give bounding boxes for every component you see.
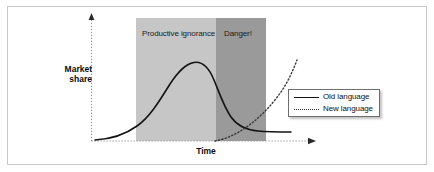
- y-axis-label-line-1: Market: [46, 64, 92, 74]
- chart-legend: Old language New language: [288, 89, 380, 117]
- band-label-danger: Danger!: [224, 29, 252, 38]
- y-axis-label-line-2: share: [46, 74, 92, 84]
- legend-label-new-language: New language: [323, 104, 373, 113]
- legend-swatch-dotted-line-icon: [294, 109, 319, 110]
- band-label-productive-ignorance: Productive ignorance: [142, 29, 215, 38]
- x-axis-label: Time: [176, 146, 236, 156]
- legend-label-old-language: Old language: [323, 92, 369, 101]
- y-axis-arrow-icon: [89, 13, 95, 20]
- y-axis-label: Market share: [46, 64, 92, 84]
- legend-item-new-language: New language: [289, 103, 381, 116]
- figure-container: Productive ignorance Danger! Market shar…: [0, 0, 434, 172]
- legend-swatch-solid-line-icon: [294, 97, 319, 98]
- x-axis-arrow-icon: [308, 138, 316, 144]
